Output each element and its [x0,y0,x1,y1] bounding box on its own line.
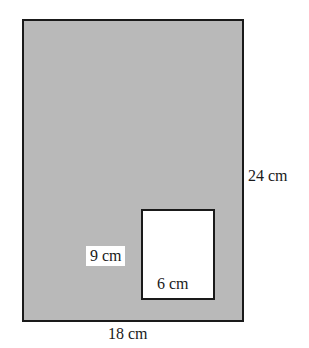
inner-width-label: 6 cm [157,276,189,292]
inner-height-label: 9 cm [86,246,125,266]
outer-height-label: 24 cm [248,168,288,184]
outer-width-label: 18 cm [108,326,148,342]
